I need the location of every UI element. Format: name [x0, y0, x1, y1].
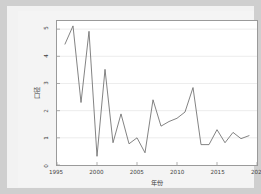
y-tick-label: 5	[38, 24, 54, 32]
y-tick-label: 1	[38, 134, 54, 142]
x-axis-label: 年份	[56, 178, 258, 187]
y-tick-label-text: 1	[42, 130, 50, 146]
figure-panel: 口径 012345 199520002005201020152020 年份	[7, 6, 254, 188]
y-tick-label: 2	[38, 107, 54, 115]
data-series-line	[65, 26, 249, 156]
chart-figure: 口径 012345 199520002005201020152020 年份	[0, 0, 261, 194]
y-tick-label-text: 3	[42, 75, 50, 91]
x-tick-label: 1995	[49, 168, 63, 177]
y-tick-marks	[57, 29, 60, 165]
x-axis-tick-labels: 199520002005201020152020	[56, 168, 258, 178]
plot-area	[56, 20, 258, 166]
figure-canvas: 口径 012345 199520002005201020152020 年份	[18, 11, 254, 187]
x-tick-label: 2015	[210, 168, 224, 177]
y-tick-label-text: 2	[42, 103, 50, 119]
y-tick-label: 3	[38, 79, 54, 87]
x-tick-label: 2020	[251, 168, 261, 177]
y-axis-tick-labels: 012345	[36, 20, 55, 166]
y-tick-label: 4	[38, 52, 54, 60]
y-tick-label-text: 4	[42, 48, 50, 64]
x-tick-marks	[57, 162, 257, 165]
x-tick-label: 2000	[89, 168, 103, 177]
x-tick-label: 2010	[170, 168, 184, 177]
line-chart-svg	[57, 21, 257, 165]
y-tick-label-text: 5	[42, 20, 50, 36]
x-tick-label: 2005	[130, 168, 144, 177]
